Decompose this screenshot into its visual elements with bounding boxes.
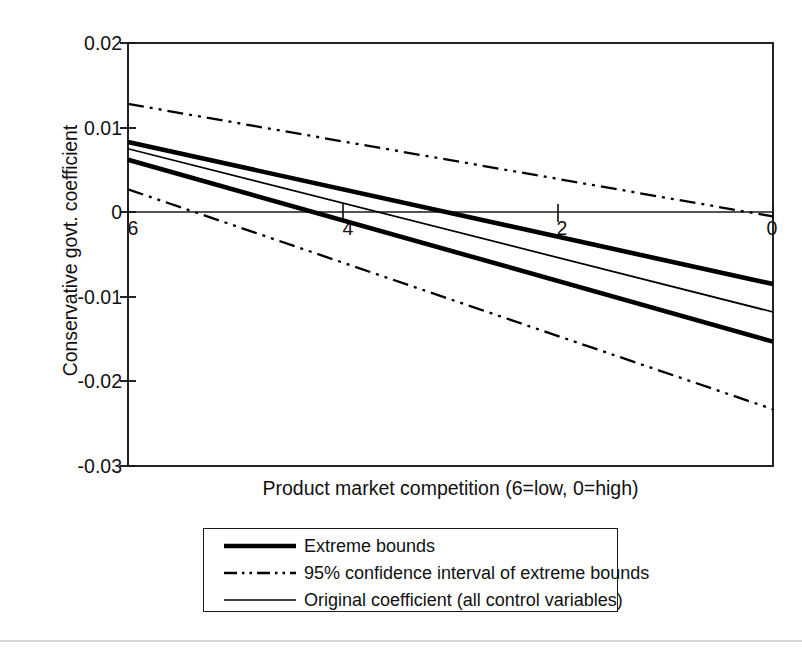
series-line-4 [128, 149, 773, 312]
dash-dot-line-key [218, 563, 304, 583]
legend-label-original-coefficient: Original coefficient (all control variab… [304, 590, 623, 611]
series-line-0 [128, 142, 773, 284]
legend-label-confidence-interval: 95% confidence interval of extreme bound… [304, 563, 649, 584]
chart-figure: Conservative govt. coefficient 0.02 0.01… [0, 0, 802, 649]
legend-item-extreme-bounds[interactable]: Extreme bounds [204, 532, 617, 560]
legend-item-original-coefficient[interactable]: Original coefficient (all control variab… [204, 586, 617, 614]
legend-item-confidence-interval[interactable]: 95% confidence interval of extreme bound… [204, 559, 617, 587]
x-axis-title: Product market competition (6=low, 0=hig… [128, 477, 773, 500]
thin-solid-line-key [218, 590, 304, 610]
series-line-2 [128, 104, 773, 217]
thick-solid-line-key [218, 536, 304, 556]
page-bottom-rule [0, 640, 802, 642]
series-line-3 [128, 189, 773, 409]
data-series-layer [128, 104, 773, 409]
plot-frame [128, 43, 773, 466]
chart-legend: Extreme bounds 95% confidence interval o… [203, 528, 618, 612]
series-line-1 [128, 160, 773, 342]
legend-label-extreme-bounds: Extreme bounds [304, 536, 435, 557]
